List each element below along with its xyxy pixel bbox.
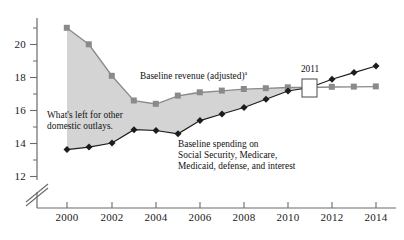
x-tick-label-2006: 2006 [180,211,220,223]
y-tick-label-16: 16 [4,104,26,116]
year-marker-box-2011 [302,79,317,97]
year-marker-label-2011: 2011 [290,64,330,74]
y-axis-major-ticks [30,45,37,177]
annotation-baseline-spending-line3: Medicaid, defense, and interest [178,161,295,172]
x-tick-label-2002: 2002 [92,211,132,223]
annotation-baseline-revenue: Baseline revenue (adjusted)a [140,68,247,82]
annotation-shaded-area-line2: domestic outlays. [47,121,113,132]
y-tick-label-12: 12 [4,170,26,182]
x-tick-label-2004: 2004 [136,211,176,223]
x-tick-label-2014: 2014 [356,211,396,223]
annotation-footnote-marker: a [245,70,248,76]
annotation-baseline-spending-line2: Social Security, Medicare, [178,150,277,161]
annotation-shaded-area-line1: What's left for other [47,110,123,121]
y-tick-label-18: 18 [4,71,26,83]
y-tick-label-20: 20 [4,38,26,50]
x-tick-label-2012: 2012 [312,211,352,223]
annotation-baseline-revenue-text: Baseline revenue (adjusted) [140,71,245,81]
annotation-baseline-spending-line1: Baseline spending on [178,139,259,150]
x-tick-label-2008: 2008 [224,211,264,223]
x-tick-label-2000: 2000 [47,211,87,223]
x-axis-ticks [67,202,376,208]
x-tick-label-2010: 2010 [268,211,308,223]
y-tick-label-14: 14 [4,137,26,149]
chart-container: 20 18 16 14 12 2000 2002 2004 2006 2008 … [0,0,404,240]
